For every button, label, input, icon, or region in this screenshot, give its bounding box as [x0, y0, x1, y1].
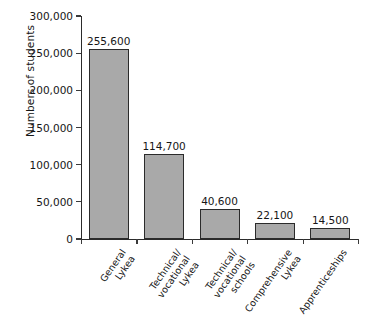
bar-group[interactable]: 14,500: [310, 16, 350, 239]
y-axis-tick-label: 50,000: [36, 196, 76, 208]
bars-layer: 255,600114,70040,60022,10014,500: [81, 16, 358, 239]
bar-value-label: 22,100: [257, 209, 294, 221]
x-axis-label-text: Apprenticeships: [297, 247, 350, 315]
x-axis-tick-mark: [136, 239, 137, 244]
y-axis-tick: 250,000: [30, 47, 81, 59]
bar[interactable]: [310, 228, 350, 239]
x-axis-label-text: ComprehensiveLykea: [242, 247, 303, 315]
x-axis-label-line: Apprenticeships: [297, 247, 350, 315]
y-axis-tick: 0: [66, 233, 81, 245]
plot-area: 050,000100,000150,000200,000250,000300,0…: [81, 16, 358, 239]
x-axis-tick-mark: [192, 239, 193, 244]
y-axis-tick-label: 250,000: [30, 47, 76, 59]
y-axis-tick-label: 200,000: [30, 84, 76, 96]
y-axis-tick: 50,000: [36, 196, 81, 208]
bar-value-label: 40,600: [201, 195, 238, 207]
y-axis-tick-label: 0: [66, 233, 76, 245]
x-axis-label-text: Technical/vocationalLykea: [146, 247, 201, 306]
y-axis-tick: 150,000: [30, 122, 81, 134]
x-axis-tick-mark: [303, 239, 304, 244]
y-axis-tick-label: 300,000: [30, 10, 76, 22]
x-axis-tick-mark: [247, 239, 248, 244]
bar-value-label: 14,500: [312, 214, 349, 226]
bar-group[interactable]: 40,600: [200, 16, 240, 239]
y-axis-tick-label: 100,000: [30, 159, 76, 171]
x-axis-tick-mark: [81, 239, 82, 244]
y-axis-title: Numbers of students: [24, 1, 36, 161]
x-axis-label-text: GeneralLykea: [97, 247, 137, 290]
bar-group[interactable]: 114,700: [144, 16, 184, 239]
bar-group[interactable]: 255,600: [89, 16, 129, 239]
bar[interactable]: [255, 223, 295, 239]
y-axis-tick-label: 150,000: [30, 122, 76, 134]
bar-group[interactable]: 22,100: [255, 16, 295, 239]
bar-chart: Numbers of students 050,000100,000150,00…: [0, 0, 375, 315]
bar[interactable]: [144, 154, 184, 239]
x-axis-tick-mark: [358, 239, 359, 244]
bar-value-label: 255,600: [87, 35, 130, 47]
bar-value-label: 114,700: [142, 140, 185, 152]
y-axis-tick: 100,000: [30, 159, 81, 171]
bar[interactable]: [200, 209, 240, 239]
bar[interactable]: [89, 49, 129, 239]
y-axis-tick: 200,000: [30, 84, 81, 96]
y-axis-tick: 300,000: [30, 10, 81, 22]
